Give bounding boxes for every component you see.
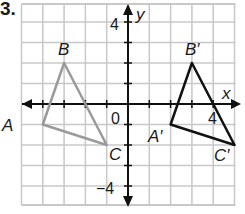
vertex-label-c: C bbox=[109, 145, 122, 164]
vertex-label-b-prime: B′ bbox=[185, 40, 200, 59]
x-axis-label: x bbox=[221, 84, 231, 103]
y-axis-up-arrow-icon bbox=[123, 4, 133, 15]
origin-label: 0 bbox=[111, 110, 120, 127]
vertex-label-a: A bbox=[1, 116, 13, 135]
x-axis-left-arrow-icon bbox=[22, 99, 32, 109]
y-axis-label: y bbox=[135, 5, 146, 24]
vertex-label-b: B bbox=[58, 40, 69, 59]
vertex-label-a-prime: A′ bbox=[147, 127, 163, 146]
x-tick-label-4: 4 bbox=[208, 110, 217, 127]
vertex-label-c-prime: C′ bbox=[214, 146, 230, 165]
y-tick-label-4: 4 bbox=[110, 16, 119, 33]
coordinate-plane: y x 0 4 −4 4 A B C A′ B′ C′ bbox=[0, 0, 245, 214]
axes bbox=[22, 4, 241, 207]
y-tick-label-neg-4: −4 bbox=[96, 180, 114, 197]
x-axis-right-arrow-icon bbox=[231, 99, 241, 109]
